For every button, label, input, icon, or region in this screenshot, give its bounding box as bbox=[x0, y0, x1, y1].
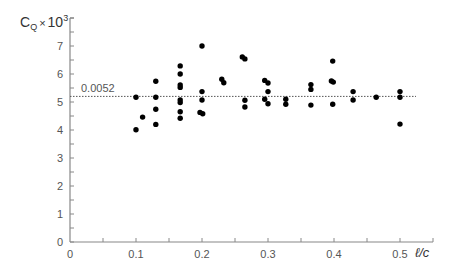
data-point bbox=[178, 109, 183, 114]
x-tick-label: 0 bbox=[67, 248, 73, 260]
data-point bbox=[153, 79, 158, 84]
y-tick-label: 5 bbox=[57, 96, 63, 108]
y-tick-label: 0 bbox=[57, 236, 63, 248]
y-tick-label: 3 bbox=[57, 152, 63, 164]
data-point bbox=[133, 95, 138, 100]
data-point bbox=[331, 79, 336, 84]
reference-line-label: 0.0052 bbox=[81, 82, 115, 94]
data-point bbox=[199, 89, 204, 94]
data-point bbox=[133, 127, 138, 132]
data-point bbox=[265, 101, 270, 106]
data-point bbox=[283, 102, 288, 107]
data-point bbox=[153, 122, 158, 127]
data-point bbox=[153, 95, 158, 100]
y-axis-title: CQ×103 bbox=[20, 13, 68, 32]
data-point bbox=[178, 63, 183, 68]
data-point bbox=[200, 111, 205, 116]
y-tick-label: 6 bbox=[57, 68, 63, 80]
data-point bbox=[153, 107, 158, 112]
y-tick-label: 2 bbox=[57, 180, 63, 192]
data-point bbox=[199, 97, 204, 102]
y-tick-label: 7 bbox=[57, 40, 63, 52]
data-point bbox=[350, 97, 355, 102]
data-point bbox=[178, 71, 183, 76]
data-point bbox=[308, 82, 313, 87]
data-point bbox=[242, 56, 247, 61]
y-axis-title-times: × bbox=[39, 17, 45, 29]
x-tick-label: 0.1 bbox=[128, 248, 143, 260]
data-point bbox=[397, 121, 402, 126]
data-point bbox=[178, 100, 183, 105]
y-axis-title-sup: 3 bbox=[63, 13, 68, 23]
x-tick-label: 0.4 bbox=[326, 248, 341, 260]
y-axis-title-sub: Q bbox=[30, 22, 37, 32]
data-point bbox=[265, 80, 270, 85]
data-point bbox=[330, 102, 335, 107]
data-point bbox=[374, 95, 379, 100]
data-point bbox=[308, 102, 313, 107]
data-point bbox=[397, 89, 402, 94]
y-axis-title-base: C bbox=[20, 14, 30, 30]
x-tick-label: 0.3 bbox=[260, 248, 275, 260]
data-point bbox=[397, 95, 402, 100]
data-point bbox=[140, 114, 145, 119]
data-point bbox=[242, 98, 247, 103]
data-point bbox=[262, 97, 267, 102]
data-point bbox=[178, 116, 183, 121]
data-point bbox=[330, 58, 335, 63]
data-point bbox=[178, 85, 183, 90]
data-points bbox=[133, 43, 402, 132]
x-tick-label: 0.5 bbox=[392, 248, 407, 260]
data-point bbox=[283, 97, 288, 102]
y-tick-label: 4 bbox=[57, 124, 63, 136]
y-tick-label: 1 bbox=[57, 208, 63, 220]
data-point bbox=[265, 89, 270, 94]
data-point bbox=[199, 43, 204, 48]
axes: 0123456700.10.20.30.40.5 bbox=[57, 18, 433, 260]
x-tick-label: 0.2 bbox=[194, 248, 209, 260]
data-point bbox=[221, 80, 226, 85]
scatter-chart: 0123456700.10.20.30.40.5 0.0052 CQ×103 ℓ… bbox=[0, 0, 453, 271]
data-point bbox=[308, 87, 313, 92]
y-axis-title-ten: 10 bbox=[48, 14, 64, 30]
data-point bbox=[350, 89, 355, 94]
x-axis-title: ℓ/c bbox=[415, 245, 430, 260]
data-point bbox=[242, 104, 247, 109]
